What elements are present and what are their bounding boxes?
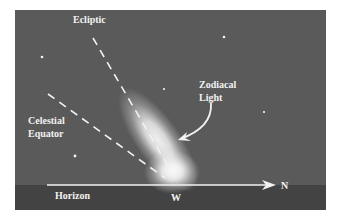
- star-icon: [223, 36, 226, 39]
- diagram-graphics: [15, 10, 326, 210]
- ecliptic-label: Ecliptic: [73, 14, 106, 25]
- horizon-label: Horizon: [55, 190, 90, 201]
- star-icon: [41, 56, 44, 59]
- sky-diagram: Ecliptic Zodiacal Light Celestial Equato…: [15, 10, 326, 210]
- celestial-equator-label-line2: Equator: [28, 128, 64, 139]
- ecliptic-line: [93, 38, 178, 183]
- zodiacal-light-label-line1: Zodiacal: [199, 79, 236, 90]
- west-label: W: [171, 192, 181, 203]
- north-label: N: [281, 180, 288, 191]
- pointer-arrow: [180, 103, 211, 139]
- zodiacal-light-label-line2: Light: [199, 92, 222, 103]
- star-icon: [163, 88, 165, 90]
- star-icon: [74, 155, 77, 158]
- celestial-equator-label-line1: Celestial: [28, 115, 65, 126]
- star-icon: [263, 111, 265, 113]
